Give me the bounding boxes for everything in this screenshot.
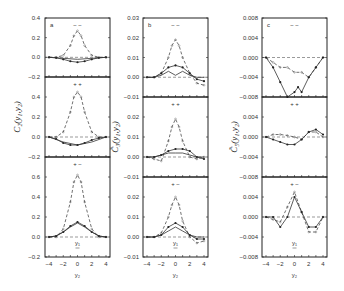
y-tick-label: −0.2 [28,74,41,80]
panel-b-3: 0.020.010.00−0.01+ −y₁ [124,177,208,260]
sign-marker: − − [290,22,299,28]
y-tick-label: −0.008 [239,94,258,100]
series-solid [49,223,106,237]
x-tick-label: −2 [277,261,285,267]
y-tick-label: 0.4 [32,15,41,21]
column-c: 0.0080.0040.000−0.004−0.008− −c0.0040.00… [229,15,327,278]
y-tick-label: 0.000 [243,134,259,140]
x-tick-label: 4 [321,261,325,267]
panel-a-3: 0.60.40.20.0−0.2+ −y₁ [28,157,110,260]
sign-marker: + − [290,181,299,187]
panel-c-2: 0.0040.000−0.004−0.008+ + [239,97,327,180]
y1-annotation: y₁ [292,240,297,246]
panel-letter: b [148,22,152,28]
y-tick-label: 0.01 [127,214,139,220]
y-tick-label: 0.01 [127,134,139,140]
sign-marker: − − [171,22,180,28]
y-tick-label: −0.01 [124,94,140,100]
series-dashed [49,31,106,58]
y-axis-label: C̃₃(y₁,y₂) [110,121,120,153]
x-tick-label: −2 [158,261,166,267]
y-tick-label: 0.03 [127,15,139,21]
sign-marker: + + [171,101,180,107]
series-dashed [49,175,106,237]
y-tick-label: 0.01 [127,55,139,61]
x-axis-label: y₂ [292,272,298,278]
panel-letter: c [267,22,270,28]
y-tick-label: 0.02 [127,114,139,120]
column-a: 0.40.20.0−0.2− −a0.40.20.0−0.2+ +0.60.40… [12,15,110,278]
y-tick-label: 0.6 [32,174,41,180]
y-tick-label: −0.01 [124,174,140,180]
y-tick-label: 0.004 [243,35,259,41]
x-tick-label: 4 [202,261,206,267]
y-tick-label: 0.004 [243,194,259,200]
y-axis-label: C₂(y₁,y₂) [12,101,22,133]
y-tick-label: 0.4 [32,94,41,100]
sign-marker: + − [73,161,82,167]
panel-b-1: 0.030.020.010.00−0.01− −b [124,15,208,100]
panel-letter: a [50,22,54,28]
y-tick-label: 0.00 [127,234,139,240]
x-tick-label: 2 [90,261,94,267]
series-dashed [147,119,204,161]
x-tick-label: 0 [293,261,297,267]
x-tick-label: 4 [104,261,108,267]
y1-annotation: y₁ [75,240,80,246]
sign-marker: − − [73,22,82,28]
y-tick-label: 0.008 [243,15,259,21]
x-tick-label: 2 [188,261,192,267]
y-tick-label: 0.0 [32,134,41,140]
y-tick-label: 0.2 [32,114,41,120]
x-axis-label: y₂ [173,272,179,278]
series-solid-dots [147,65,204,81]
figure: 0.40.20.0−0.2− −a0.40.20.0−0.2+ +0.60.40… [0,0,344,291]
series-solid-dots [147,149,204,159]
y-tick-label: 0.2 [32,214,41,220]
panel-a-2: 0.40.20.0−0.2+ + [28,77,110,160]
x-tick-label: 2 [307,261,311,267]
x-tick-label: −2 [60,261,68,267]
y-tick-label: −0.2 [28,154,41,160]
series-dashed [266,132,323,140]
x-tick-label: −4 [144,261,152,267]
panel-b-2: 0.020.010.00−0.01+ + [124,97,208,180]
y-tick-label: 0.004 [243,114,259,120]
y1-annotation: y₁ [173,240,178,246]
y-tick-label: 0.2 [32,35,41,41]
y-tick-label: −0.2 [28,254,41,260]
y-tick-label: 0.0 [32,54,41,60]
series-solid [147,153,204,157]
y-tick-label: 0.0 [32,234,41,240]
x-tick-label: −4 [263,261,271,267]
y-tick-label: 0.000 [243,214,259,220]
panel-frame [143,18,208,97]
y-tick-label: 0.02 [127,194,139,200]
series-solid [147,227,204,237]
y-tick-label: −0.004 [239,234,258,240]
y-tick-label: −0.004 [239,74,258,80]
panel-frame [143,97,208,177]
series-dashed [266,58,323,78]
y-tick-label: 0.00 [127,74,139,80]
sign-marker: + + [73,81,82,87]
y-tick-label: −0.004 [239,154,258,160]
x-tick-label: −4 [46,261,54,267]
y-axis-label: C̃₅(y₁,y₂) [229,121,239,153]
column-b: 0.030.020.010.00−0.01− −b0.020.010.00−0.… [110,15,208,278]
series-solid-dots [49,137,106,145]
y-tick-label: 0.02 [127,35,139,41]
panel-c-3: 0.0040.000−0.004−0.008+ −y₁ [239,177,327,260]
y-tick-label: −0.01 [124,254,140,260]
y-tick-label: −0.008 [239,254,258,260]
y-tick-label: −0.008 [239,174,258,180]
x-tick-label: 0 [174,261,178,267]
series-solid-dots [266,197,323,227]
x-tick-label: 0 [76,261,80,267]
y-tick-label: 0.00 [127,154,139,160]
y-tick-label: 0.000 [243,55,259,61]
x-axis-label: y₂ [75,272,81,278]
sign-marker: + − [171,181,180,187]
panel-a-1: 0.40.20.0−0.2− −a [28,15,110,80]
series-dashed [147,197,204,243]
